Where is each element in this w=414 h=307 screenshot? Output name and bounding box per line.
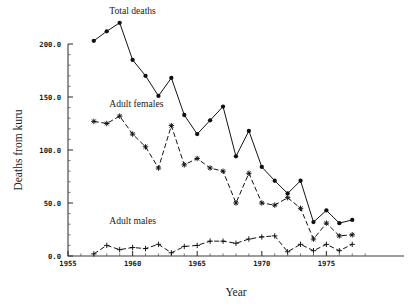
x-tick-label: 1955 [59, 259, 76, 268]
y-axis-ticks [68, 44, 73, 256]
data-point-marker-plus [298, 242, 303, 247]
data-point-marker-circle [182, 113, 186, 117]
data-point-marker-circle [311, 220, 315, 224]
series-line [94, 23, 352, 223]
data-point-marker-plus [220, 238, 225, 243]
data-point-marker-star [130, 131, 135, 136]
series-total-deaths [92, 21, 355, 226]
data-point-marker-plus [117, 247, 122, 252]
series-adult-males [91, 233, 355, 256]
data-point-marker-circle [92, 39, 96, 43]
data-point-marker-star [259, 200, 264, 205]
data-point-marker-star [324, 220, 329, 225]
data-point-marker-circle [105, 29, 109, 33]
x-tick-label: 1975 [318, 259, 335, 268]
data-point-marker-circle [273, 179, 277, 183]
data-point-marker-circle [169, 76, 173, 80]
data-point-marker-star [169, 123, 174, 128]
x-tick-label: 1960 [124, 259, 141, 268]
data-point-marker-circle [221, 104, 225, 108]
x-axis-title: Year [225, 286, 246, 298]
data-point-marker-circle [195, 132, 199, 136]
x-axis-tick-labels: 19551960196519701975 [59, 259, 335, 268]
data-point-marker-plus [311, 248, 316, 253]
data-point-marker-star [233, 200, 238, 205]
data-point-marker-circle [247, 129, 251, 133]
data-point-marker-star [143, 144, 148, 149]
data-point-marker-star [350, 232, 355, 237]
data-point-marker-plus [169, 250, 174, 255]
data-point-marker-circle [118, 21, 122, 25]
y-axis-title: Deaths from kuru [12, 109, 24, 190]
data-point-marker-plus [324, 242, 329, 247]
data-point-marker-plus [350, 242, 355, 247]
data-point-marker-star [195, 156, 200, 161]
data-point-marker-circle [260, 165, 264, 169]
chart-canvas: 19551960196519701975 0.050.0100.0150.020… [0, 0, 414, 307]
data-point-marker-star [285, 195, 290, 200]
series-label-adult-females: Adult females [109, 98, 163, 109]
kuru-deaths-chart: 19551960196519701975 0.050.0100.0150.020… [0, 0, 414, 307]
x-tick-label: 1965 [189, 259, 206, 268]
data-point-marker-plus [337, 248, 342, 253]
data-point-marker-circle [337, 221, 341, 225]
x-axis-ticks [68, 251, 365, 256]
series-label-adult-males: Adult males [109, 215, 156, 226]
data-point-marker-star [91, 119, 96, 124]
data-point-marker-star [298, 206, 303, 211]
data-point-marker-circle [324, 208, 328, 212]
data-point-marker-plus [195, 243, 200, 248]
data-point-marker-plus [104, 243, 109, 248]
data-point-marker-star [337, 233, 342, 238]
data-point-marker-star [156, 165, 161, 170]
data-point-marker-circle [298, 179, 302, 183]
data-point-marker-plus [143, 246, 148, 251]
y-tick-label: 50.0 [44, 199, 61, 208]
data-point-marker-plus [259, 234, 264, 239]
data-point-marker-star [104, 121, 109, 126]
series-label-total-deaths: Total deaths [109, 5, 156, 16]
data-point-marker-star [220, 169, 225, 174]
data-point-marker-star [117, 113, 122, 118]
y-tick-label: 0.0 [48, 252, 61, 261]
data-point-marker-plus [207, 238, 212, 243]
data-point-marker-plus [246, 236, 251, 241]
data-point-marker-star [272, 202, 277, 207]
y-tick-label: 100.0 [39, 146, 61, 155]
y-tick-label: 150.0 [39, 93, 61, 102]
data-point-marker-circle [130, 58, 134, 62]
data-point-marker-star [246, 171, 251, 176]
data-point-marker-circle [143, 74, 147, 78]
data-point-marker-plus [233, 241, 238, 246]
data-point-marker-circle [234, 154, 238, 158]
data-point-marker-plus [156, 242, 161, 247]
data-point-marker-star [182, 162, 187, 167]
y-axis-tick-labels: 0.050.0100.0150.0200.0 [39, 40, 61, 261]
data-point-marker-star [207, 165, 212, 170]
y-tick-label: 200.0 [39, 40, 61, 49]
data-point-marker-plus [130, 245, 135, 250]
data-point-marker-circle [350, 218, 354, 222]
data-point-marker-plus [182, 244, 187, 249]
x-tick-label: 1970 [253, 259, 270, 268]
data-point-marker-star [311, 236, 316, 241]
data-point-marker-circle [208, 118, 212, 122]
data-point-marker-circle [285, 191, 289, 195]
